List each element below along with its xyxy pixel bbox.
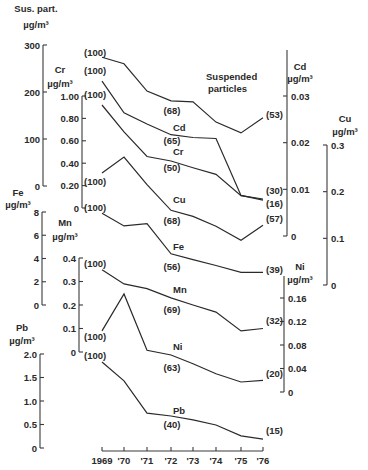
x-axis: 1969'70'71'72'73'74'75'76: [91, 447, 269, 466]
percent-annotation: (68): [164, 105, 181, 116]
tick-label: 6: [34, 230, 39, 241]
tick-label: 8: [34, 207, 39, 218]
y-axis-cr: 00.200.400.600.801.00Crµg/m³: [47, 64, 86, 214]
tick-label: 0.80: [61, 113, 80, 124]
tick-label: 0.1: [63, 323, 77, 334]
percent-annotation: (20): [266, 368, 283, 379]
axis-unit: µg/m³: [287, 73, 313, 84]
series-name-label: Mn: [173, 284, 187, 295]
percent-annotation: (53): [266, 109, 283, 120]
y-axis-suspended-particles: 0100200300Sus. part.µg/m³: [14, 3, 57, 192]
axis-title: Cd: [294, 61, 307, 72]
percent-annotation: (57): [266, 213, 283, 224]
percent-annotation: (100): [84, 176, 106, 187]
tick-label: 0.04: [288, 363, 307, 374]
percent-annotation: (50): [164, 162, 181, 173]
tick-label: 0.2: [331, 186, 344, 197]
series-name-label: Suspended: [206, 71, 257, 82]
y-axis-cu: 00.10.20.3Cuµg/m³: [323, 113, 358, 291]
percent-annotation: (68): [164, 215, 181, 226]
y-axis-pb: 00.51.01.52.0Pbµg/m³: [9, 322, 44, 454]
y-axis-ni: 00.040.080.120.16Niµg/m³: [280, 261, 313, 398]
tick-label: 0.12: [288, 316, 307, 327]
tick-label: 0: [35, 181, 40, 192]
tick-label: 0: [291, 231, 296, 242]
x-tick-label: 1969: [91, 455, 112, 466]
tick-label: 0.4: [63, 253, 77, 264]
percent-annotation: (30): [266, 185, 283, 196]
tick-label: 1.00: [61, 91, 80, 102]
axis-title: Cr: [55, 64, 66, 75]
tick-label: 2.0: [24, 349, 37, 360]
tick-label: 0.60: [61, 135, 80, 146]
series-name-label: Cu: [173, 194, 186, 205]
tick-label: 0.02: [291, 137, 310, 148]
tick-label: 0: [32, 443, 37, 454]
axis-title: Pb: [16, 322, 28, 333]
tick-label: 0: [34, 300, 39, 311]
percent-annotation: (16): [266, 198, 283, 209]
tick-label: 0: [288, 387, 293, 398]
tick-label: 1.5: [24, 372, 38, 383]
series-name-label: particles: [208, 83, 247, 94]
percent-annotation: (100): [84, 65, 106, 76]
tick-label: 200: [24, 87, 40, 98]
percent-annotation: (100): [84, 202, 106, 213]
percent-annotation: (63): [164, 362, 181, 373]
x-tick-label: '74: [210, 455, 224, 466]
percent-annotation: (100): [84, 47, 106, 58]
labels-pb: Pb(100)(40)(15): [84, 350, 283, 436]
axis-title: Sus. part.: [14, 3, 57, 14]
axis-unit: µg/m³: [9, 335, 35, 346]
y-axis-cd: 00.010.020.03Cdµg/m³: [283, 50, 313, 242]
labels-mn: Mn(100)(69)(32): [84, 258, 283, 326]
series-line-ni: [102, 294, 263, 382]
labels-cu: Cu(100)(68)(57): [84, 176, 283, 226]
tick-label: 0.5: [24, 419, 38, 430]
tick-label: 0: [71, 347, 76, 358]
x-tick-label: '70: [118, 455, 131, 466]
tick-label: 4: [34, 253, 40, 264]
tick-label: 1.0: [24, 396, 37, 407]
axis-title: Cu: [339, 113, 352, 124]
axis-title: Fe: [12, 187, 23, 198]
tick-label: 0.40: [61, 158, 80, 169]
axis-title: Ni: [295, 261, 305, 272]
axis-unit: µg/m³: [47, 78, 73, 89]
percent-annotation: (65): [164, 135, 181, 146]
tick-label: 2: [34, 276, 39, 287]
x-tick-label: '76: [257, 455, 270, 466]
axis-title: Mn: [58, 217, 72, 228]
tick-label: 0.08: [288, 340, 307, 351]
percent-annotation: (100): [84, 350, 106, 361]
percent-annotation: (100): [84, 331, 106, 342]
series-name-label: Cd: [173, 122, 186, 133]
series-line-pb: [102, 362, 263, 439]
series-name-label: Fe: [173, 241, 184, 252]
percent-annotation: (39): [266, 264, 283, 275]
percent-annotation: (100): [84, 258, 106, 269]
tick-label: 0: [74, 203, 79, 214]
series-name-label: Ni: [173, 341, 183, 352]
axis-unit: µg/m³: [23, 19, 49, 30]
percent-annotation: (100): [84, 89, 106, 100]
x-tick-label: '73: [187, 455, 200, 466]
tick-label: 0.1: [331, 233, 345, 244]
tick-label: 0.03: [291, 91, 310, 102]
x-tick-label: '75: [235, 455, 249, 466]
tick-label: 0.3: [63, 276, 76, 287]
axis-unit: µg/m³: [287, 274, 313, 285]
axis-unit: µg/m³: [5, 199, 31, 210]
tick-label: 0.20: [61, 180, 80, 191]
labels-cd: Cd(100)(65)(30): [84, 65, 283, 196]
multi-axis-line-chart: 0100200300Sus. part.µg/m³00.010.020.03Cd…: [0, 0, 368, 470]
labels-fe: Fe(100)(56)(39): [84, 202, 283, 275]
percent-annotation: (69): [164, 304, 181, 315]
tick-label: 0.01: [291, 184, 310, 195]
x-tick-label: '71: [141, 455, 155, 466]
tick-label: 0: [331, 280, 336, 291]
tick-label: 0.16: [288, 293, 307, 304]
axis-unit: µg/m³: [332, 126, 358, 137]
y-axes: 0100200300Sus. part.µg/m³00.010.020.03Cd…: [5, 3, 358, 454]
percent-annotation: (32): [266, 315, 283, 326]
